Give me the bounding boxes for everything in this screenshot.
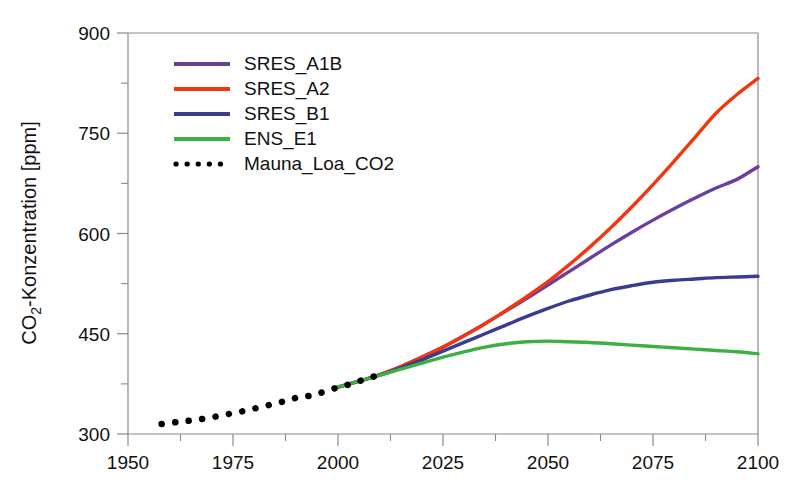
y-axis-ticks: 300450600750900 <box>78 23 128 445</box>
x-tick-label: 2075 <box>632 452 674 473</box>
chart-page: 300450600750900 195019752000202520502075… <box>0 0 812 496</box>
series-line-mauna-loa-co2 <box>162 375 380 424</box>
y-axis-title-text: CO2-Konzentration [ppm] <box>18 121 44 344</box>
x-tick-label: 2000 <box>317 452 359 473</box>
chart-legend: SRES_A1BSRES_A2SRES_B1ENS_E1Mauna_Loa_CO… <box>174 53 394 175</box>
x-tick-label: 1950 <box>107 452 149 473</box>
x-tick-label: 1975 <box>212 452 254 473</box>
y-tick-label: 300 <box>78 424 110 445</box>
legend-label-sres-a1b: SRES_A1B <box>244 53 342 75</box>
x-tick-label: 2100 <box>737 452 779 473</box>
y-tick-label: 750 <box>78 123 110 144</box>
y-axis-title: CO2-Konzentration [ppm] <box>18 121 44 344</box>
x-tick-label: 2050 <box>527 452 569 473</box>
y-tick-label: 450 <box>78 324 110 345</box>
legend-label-sres-a2: SRES_A2 <box>244 78 330 100</box>
legend-label-sres-b1: SRES_B1 <box>244 103 330 125</box>
y-tick-label: 900 <box>78 23 110 44</box>
series-line-ens-e1 <box>338 341 758 387</box>
x-axis-ticks: 1950197520002025205020752100 <box>107 434 779 473</box>
y-tick-label: 600 <box>78 224 110 245</box>
legend-label-ens-e1: ENS_E1 <box>244 128 317 150</box>
legend-label-mauna-loa-co2: Mauna_Loa_CO2 <box>244 153 394 175</box>
plot-axes <box>128 33 758 434</box>
x-tick-label: 2025 <box>422 452 464 473</box>
co2-concentration-chart: 300450600750900 195019752000202520502075… <box>0 0 812 496</box>
series-line-sres-a1b <box>338 167 758 388</box>
